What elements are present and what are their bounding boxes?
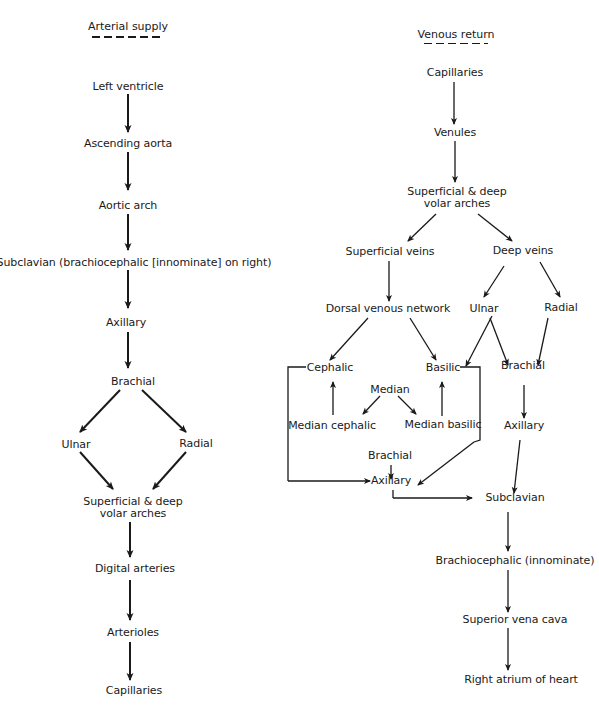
arterial-title-dash-underline <box>92 36 164 38</box>
node-arterial-volar-arches-line2: volar arches <box>100 507 166 520</box>
node-venous-brachial-superficial: Brachial <box>368 449 412 462</box>
node-venous-capillaries: Capillaries <box>427 66 483 79</box>
circulation-flow-diagram: Arterial supply Left ventricle Ascending… <box>0 0 599 707</box>
node-right-atrium: Right atrium of heart <box>464 673 578 686</box>
node-arterial-brachial: Brachial <box>111 375 155 388</box>
node-venous-ulnar: Ulnar <box>470 302 499 315</box>
arterial-supply-title: Arterial supply <box>88 20 168 33</box>
node-median-cephalic: Median cephalic <box>288 419 376 432</box>
node-dorsal-venous-network: Dorsal venous network <box>326 302 451 315</box>
node-median-basilic: Median basilic <box>405 418 482 431</box>
node-aortic-arch: Aortic arch <box>99 199 157 212</box>
node-venules: Venules <box>434 126 476 139</box>
connector-arrows <box>0 0 599 707</box>
node-venous-subclavian: Subclavian <box>485 491 544 504</box>
node-venous-volar-arches-line2: volar arches <box>424 197 490 210</box>
node-arterial-radial: Radial <box>179 437 212 450</box>
node-arterial-axillary: Axillary <box>106 316 146 329</box>
node-left-ventricle: Left ventricle <box>93 80 164 93</box>
node-venous-brachial-deep: Brachial <box>501 359 545 372</box>
node-arterial-subclavian: Subclavian (brachiocephalic [innominate]… <box>0 256 271 269</box>
node-arterial-capillaries: Capillaries <box>106 684 162 697</box>
node-ascending-aorta: Ascending aorta <box>84 137 172 150</box>
venous-title-dash-underline <box>424 43 488 44</box>
node-venous-axillary-deep: Axillary <box>504 419 544 432</box>
node-venous-radial: Radial <box>544 301 577 314</box>
node-basilic: Basilic <box>426 361 461 374</box>
node-median: Median <box>370 383 409 396</box>
node-venous-axillary-superficial: Axillary <box>371 474 411 487</box>
node-arterial-ulnar: Ulnar <box>62 438 91 451</box>
node-digital-arteries: Digital arteries <box>95 562 175 575</box>
node-brachiocephalic: Brachiocephalic (innominate) <box>436 554 595 567</box>
node-cephalic: Cephalic <box>307 361 354 374</box>
node-superior-vena-cava: Superior vena cava <box>463 613 568 626</box>
venous-return-title: Venous return <box>418 28 495 41</box>
node-deep-veins: Deep veins <box>493 244 554 257</box>
node-arterioles: Arterioles <box>107 626 159 639</box>
node-superficial-veins: Superficial veins <box>346 245 435 258</box>
